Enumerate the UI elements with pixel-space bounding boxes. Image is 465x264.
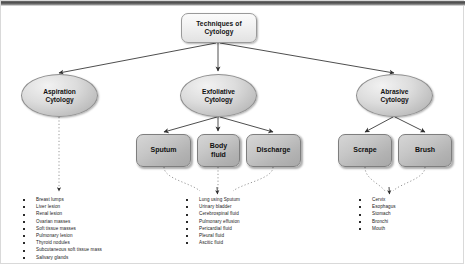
list-item: Esophagus — [359, 205, 396, 210]
list-item: Ascitic fluid — [186, 241, 240, 246]
exfoliative-label-line2: Cytology — [204, 96, 232, 104]
list-item: Thyroid nodules — [23, 241, 102, 246]
node-scrape[interactable]: Scrape — [338, 134, 392, 167]
sputum-label-line1: Sputum — [150, 146, 176, 154]
list-aspiration-indications: Breast lumpsLiver lesionRenal lesionOvar… — [23, 198, 102, 263]
abrasive-label-line1: Abrasive — [381, 88, 409, 96]
scrape-label-line1: Scrape — [353, 146, 376, 154]
list-item: Lung using Sputum — [186, 198, 240, 203]
abrasive-list: CervixEsophagusStomachBronchiMouth — [359, 198, 396, 231]
brush-label-line1: Brush — [415, 146, 435, 154]
list-exfoliative-indications: Lung using SputumUrinary bladderCerebros… — [186, 198, 240, 248]
list-item: Salivary glands — [23, 256, 102, 261]
list-item: Pulmonary lesion — [23, 234, 102, 239]
aspiration-list: Breast lumpsLiver lesionRenal lesionOvar… — [23, 198, 102, 260]
list-item: Renal lesion — [23, 212, 102, 217]
list-item: Cervix — [359, 198, 396, 203]
list-item: Ovarian masses — [23, 220, 102, 225]
list-item: Pleural fluid — [186, 234, 240, 239]
discharge-label-line1: Discharge — [257, 146, 291, 154]
node-body-fluid[interactable]: Body fluid — [197, 134, 240, 167]
exfoliative-label-line1: Exfoliative — [202, 88, 235, 96]
node-exfoliative-cytology[interactable]: Exfoliative Cytology — [180, 74, 257, 117]
list-item: Subcutaneous soft tissue mass — [23, 248, 102, 253]
node-techniques-of-cytology[interactable]: Techniques of Cytology — [181, 13, 257, 43]
list-item: Pericardial fluid — [186, 227, 240, 232]
list-item: Bronchi — [359, 220, 396, 225]
body-fluid-label-line1: Body — [210, 142, 228, 150]
root-label-line2: Cytology — [204, 28, 233, 36]
node-abrasive-cytology[interactable]: Abrasive Cytology — [356, 74, 433, 117]
abrasive-label-line2: Cytology — [380, 96, 408, 104]
list-item: Mouth — [359, 227, 396, 232]
body-fluid-label-line2: fluid — [211, 151, 226, 159]
aspiration-label-line1: Aspiration — [43, 88, 76, 96]
list-item: Urinary bladder — [186, 205, 240, 210]
list-item: Stomach — [359, 212, 396, 217]
root-label-line1: Techniques of — [196, 20, 242, 28]
top-border-hairline — [1, 5, 465, 6]
list-item: Soft tissue masses — [23, 227, 102, 232]
node-discharge[interactable]: Discharge — [246, 134, 301, 167]
aspiration-label-line2: Cytology — [45, 96, 73, 104]
list-item: Liver lesion — [23, 205, 102, 210]
list-abrasive-indications: CervixEsophagusStomachBronchiMouth — [359, 198, 396, 234]
node-brush[interactable]: Brush — [398, 134, 452, 167]
node-aspiration-cytology[interactable]: Aspiration Cytology — [21, 74, 98, 117]
list-item: Pulmonary effusion — [186, 220, 240, 225]
exfoliative-list: Lung using SputumUrinary bladderCerebros… — [186, 198, 240, 246]
list-item: Breast lumps — [23, 198, 102, 203]
list-item: Cerebrospinal fluid — [186, 212, 240, 217]
node-sputum[interactable]: Sputum — [136, 134, 191, 167]
